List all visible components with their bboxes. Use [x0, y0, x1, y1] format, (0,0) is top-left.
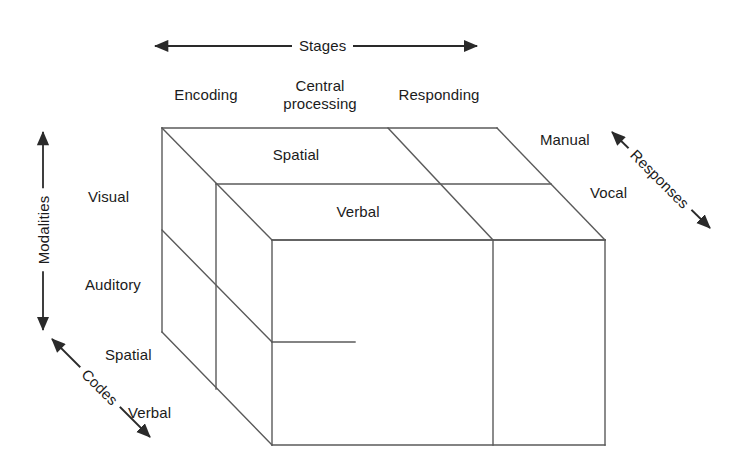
modality-label-auditory: Auditory: [85, 276, 141, 293]
top-face-label-spatial: Spatial: [273, 146, 320, 163]
code-label-verbal: Verbal: [128, 404, 171, 421]
stage-label-encoding: Encoding: [174, 86, 237, 103]
modality-label-visual: Visual: [88, 188, 129, 205]
axis-label-stages: Stages: [292, 37, 353, 54]
response-label-manual: Manual: [540, 131, 590, 148]
code-label-spatial: Spatial: [105, 346, 152, 363]
diagram-canvas: Stages Modalities Codes Responses Encodi…: [0, 0, 734, 469]
stage-label-central-processing-line2: processing: [283, 95, 357, 112]
axis-arrows: [43, 46, 710, 437]
response-label-vocal: Vocal: [590, 184, 627, 201]
stage-label-central-processing-line1: Central: [295, 77, 344, 94]
edge-left-middle-diag: [162, 230, 272, 342]
stage-label-responding: Responding: [398, 86, 479, 103]
edge-left-bottom-diag: [162, 332, 272, 445]
top-face-label-verbal: Verbal: [336, 203, 379, 220]
cube-edges: [162, 128, 605, 445]
axis-label-modalities: Modalities: [33, 189, 54, 272]
